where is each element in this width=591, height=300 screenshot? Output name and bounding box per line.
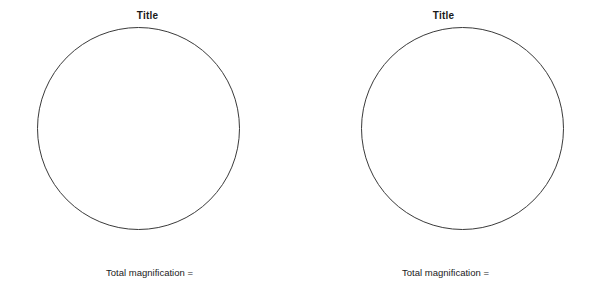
field-of-view-circle-left[interactable] bbox=[37, 27, 240, 230]
microscope-drawing-panel-left: Title Total magnification = bbox=[0, 0, 295, 300]
worksheet: Title Total magnification = Title Total … bbox=[0, 0, 591, 300]
total-magnification-label-left: Total magnification = bbox=[0, 267, 297, 278]
total-magnification-label-right: Total magnification = bbox=[296, 267, 591, 278]
panel-title-right: Title bbox=[296, 10, 591, 21]
field-of-view-circle-right[interactable] bbox=[361, 27, 564, 230]
panel-title-left: Title bbox=[0, 10, 295, 21]
microscope-drawing-panel-right: Title Total magnification = bbox=[296, 0, 591, 300]
